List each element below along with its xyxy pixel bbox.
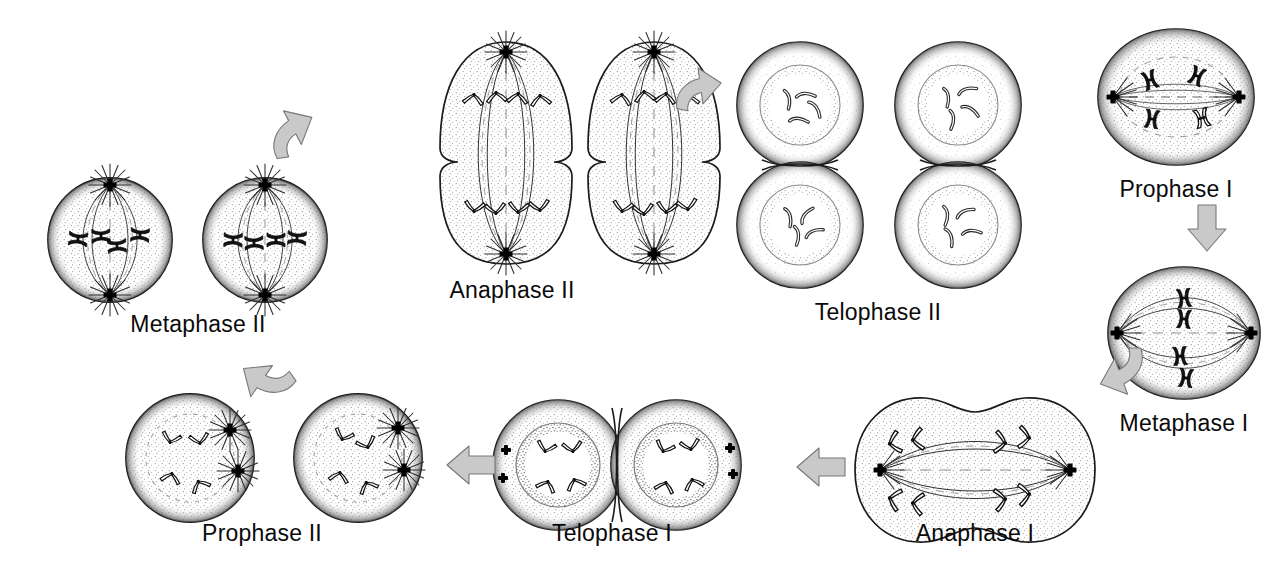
anaphase-2-cell-right [588,31,720,275]
arrow-telophase1-to-prophase2 [447,446,495,484]
arrow-prophase2-to-metaphase2 [233,349,299,413]
label-telophase-1: Telophase I [552,522,672,545]
label-metaphase-1: Metaphase I [1120,412,1249,435]
label-anaphase-1: Anaphase I [916,522,1034,545]
metaphase-2-cell-left [48,164,172,316]
arrow-prophase1-to-metaphase1 [1188,205,1226,251]
label-metaphase-2: Metaphase II [130,313,265,336]
telophase-1-cell-right [611,400,741,530]
prophase-2-cell-right [294,394,425,522]
metaphase-2-cell-right [203,164,327,316]
prophase-2-cell-left [126,394,259,522]
label-prophase-2: Prophase II [202,522,322,545]
meiosis-diagram: Prophase I Metaphase I Anaphase I Teloph… [0,0,1276,583]
telophase-1-cell-left [493,400,623,530]
telophase-2-cell-bottom-right [895,162,1021,288]
anaphase-2-cell-left [440,31,572,275]
label-prophase-1: Prophase I [1119,178,1232,201]
telophase-2-cell-top-right [895,42,1021,168]
telophase-2-cell-top-left [737,42,863,168]
arrow-metaphase2-to-anaphase2 [259,101,323,162]
stage-prophase-2 [126,394,425,522]
stage-metaphase-2 [48,164,327,316]
arrow-anaphase1-to-telophase1 [797,448,845,486]
telophase-2-cell-bottom-left [737,162,863,288]
stage-telophase-2 [737,42,1021,288]
stage-prophase-1 [1098,29,1254,165]
stage-telophase-1 [493,400,741,530]
diagram-canvas [0,0,1276,583]
label-telophase-2: Telophase II [815,301,941,324]
label-anaphase-2: Anaphase II [450,279,575,302]
stage-anaphase-2 [440,31,720,275]
